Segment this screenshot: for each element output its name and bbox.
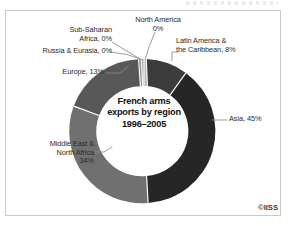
leader-sub-saharan (112, 42, 140, 59)
donut-center-title: French arms exports by region 1996–2005 (96, 96, 192, 130)
center-title-line-3: 1996–2005 (96, 119, 192, 130)
leader-russia (110, 52, 142, 59)
callout-label-middle-east-north-africa: Middle East & North Africa 34% (6, 140, 94, 166)
slice-asia (147, 73, 216, 203)
figure-root: Sub-Saharan Africa, 0% Russia & Eurasia,… (0, 0, 288, 226)
callout-label-latin-america: Latin America & the Caribbean, 8% (176, 37, 280, 54)
center-title-line-2: exports by region (96, 107, 192, 118)
callout-label-north-america: North America 0% (122, 16, 194, 33)
callout-label-europe: Europe, 13% (16, 68, 104, 77)
source-credit: ©IISS (258, 203, 278, 212)
callout-label-sub-saharan-africa: Sub-Saharan Africa, 0% (28, 26, 112, 43)
leader-north-america (145, 32, 155, 59)
callout-label-asia: Asia, 45% (229, 115, 285, 124)
callout-label-russia-eurasia: Russia & Eurasia, 0% (8, 47, 112, 56)
center-title-line-1: French arms (96, 96, 192, 107)
